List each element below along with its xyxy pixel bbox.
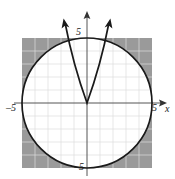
tick-label-x-negative-5: –5 [6, 103, 16, 113]
graph-figure: –5 5 5 –5 x [0, 0, 175, 179]
tick-label-x-positive-5: 5 [152, 103, 157, 113]
tick-label-y-negative-5: –5 [74, 162, 84, 172]
tick-label-y-positive-5: 5 [76, 27, 81, 37]
coordinate-plane-svg [0, 0, 175, 179]
axis-label-x: x [165, 104, 169, 114]
